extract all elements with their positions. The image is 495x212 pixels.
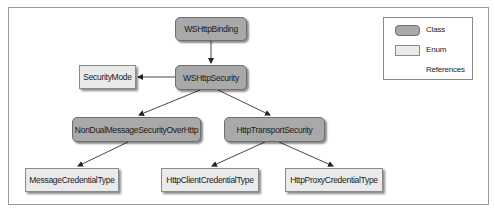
node-httpproxycredentialtype: HttpProxyCredentialType xyxy=(285,168,383,192)
node-label: MessageCredentialType xyxy=(29,175,114,185)
legend-class-label: Class xyxy=(426,25,445,34)
node-nondualmessagesecurityoverhttp: NonDualMessageSecurityOverHttp xyxy=(72,117,201,142)
node-label: HttpTransportSecurity xyxy=(236,125,312,135)
edge-httptransport-to-httpproxycred xyxy=(279,142,333,166)
legend-enum-swatch xyxy=(395,45,420,56)
node-httptransportsecurity: HttpTransportSecurity xyxy=(224,117,325,142)
edge-security-to-nondual xyxy=(139,90,200,115)
node-label: NonDualMessageSecurityOverHttp xyxy=(75,125,198,135)
node-messagecredentialtype: MessageCredentialType xyxy=(25,168,119,192)
legend-enum-label: Enum xyxy=(426,45,446,54)
legend-class-swatch xyxy=(395,25,420,36)
legend-references-label: References xyxy=(426,65,465,74)
node-httpclientcredentialtype: HttpClientCredentialType xyxy=(161,168,259,192)
edge-security-to-httptransport xyxy=(218,90,270,115)
node-wshttpbinding: WSHttpBinding xyxy=(175,17,247,41)
node-wshttpsecurity: WSHttpSecurity xyxy=(175,65,247,90)
node-securitymode: SecurityMode xyxy=(79,65,136,89)
edge-nondual-to-messagecred xyxy=(78,142,128,166)
node-label: SecurityMode xyxy=(83,72,131,82)
node-label: WSHttpSecurity xyxy=(183,73,239,83)
node-label: WSHttpBinding xyxy=(184,24,238,34)
edge-httptransport-to-httpclientcred xyxy=(212,142,265,166)
node-label: HttpClientCredentialType xyxy=(166,175,253,185)
node-label: HttpProxyCredentialType xyxy=(290,175,378,185)
legend: Class Enum References xyxy=(383,17,473,80)
